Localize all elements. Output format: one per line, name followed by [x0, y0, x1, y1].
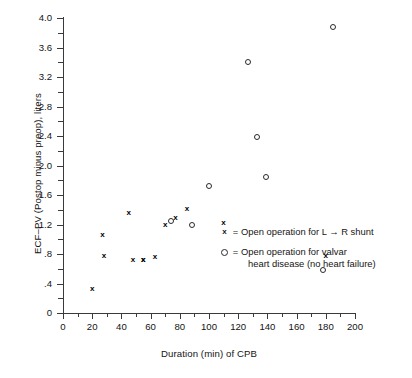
x-tick-major	[297, 313, 298, 319]
y-tick-major	[57, 107, 63, 108]
x-tick-major	[267, 313, 268, 319]
data-point-shunt: x	[152, 253, 159, 260]
x-axis-title: Duration (min) of CPB	[63, 348, 355, 359]
plot-area: 0.4.81.21.62.02.42.83.23.64.0 0204060801…	[0, 0, 412, 378]
y-axis-title: ECF–PV (Postop minus preop), liters	[32, 49, 43, 299]
x-tick-major	[121, 313, 122, 319]
y-tick-label: .8	[8, 248, 52, 259]
y-tick-major	[57, 48, 63, 49]
legend-equals-sign-2: =	[230, 246, 241, 258]
y-tick-minor	[58, 62, 63, 63]
y-tick-major	[57, 254, 63, 255]
x-tick-minor	[282, 313, 283, 317]
x-tick-major	[180, 313, 181, 319]
y-tick-minor	[58, 92, 63, 93]
x-tick-major	[238, 313, 239, 319]
x-tick-major	[92, 313, 93, 319]
data-point-shunt: x	[89, 285, 96, 292]
y-tick-major	[57, 166, 63, 167]
data-point-shunt: x	[100, 252, 107, 259]
legend-marker-x-icon: x	[219, 226, 230, 238]
x-tick-major	[151, 313, 152, 319]
data-point-valvar	[263, 174, 269, 180]
x-tick-minor	[194, 313, 195, 317]
x-tick-minor	[311, 313, 312, 317]
data-point-shunt: x	[125, 209, 132, 216]
x-tick-label: 200	[335, 321, 375, 332]
x-tick-major	[355, 313, 356, 319]
y-tick-label: 1.6	[8, 189, 52, 200]
y-tick-minor	[58, 33, 63, 34]
data-point-valvar	[168, 218, 174, 224]
data-point-shunt: x	[130, 256, 137, 263]
y-tick-minor	[58, 269, 63, 270]
x-tick-major	[209, 313, 210, 319]
data-point-valvar	[330, 24, 336, 30]
y-tick-minor	[58, 121, 63, 122]
x-tick-minor	[107, 313, 108, 317]
y-tick-minor	[58, 239, 63, 240]
y-tick-label: 2.4	[8, 130, 52, 141]
y-tick-label: 3.2	[8, 71, 52, 82]
x-tick-minor	[78, 313, 79, 317]
legend-label-shunt: Open operation for L → R shunt	[241, 226, 374, 238]
y-tick-minor	[58, 151, 63, 152]
y-tick-label: 4.0	[8, 12, 52, 23]
legend-label-valvar: Open operation for valvar heart disease …	[241, 246, 376, 270]
y-tick-major	[57, 195, 63, 196]
data-point-shunt: x	[99, 231, 106, 238]
y-tick-label: .4	[8, 278, 52, 289]
data-point-valvar	[189, 222, 195, 228]
x-tick-major	[63, 313, 64, 319]
legend-label-valvar-line1: Open operation for valvar	[241, 246, 347, 257]
y-tick-major	[57, 18, 63, 19]
y-tick-label: 0	[8, 307, 52, 318]
data-point-valvar	[206, 183, 212, 189]
data-point-valvar	[254, 134, 260, 140]
legend-equals-sign: =	[230, 226, 241, 238]
y-tick-label: 2.8	[8, 101, 52, 112]
data-point-shunt: x	[220, 219, 227, 226]
legend-entry-shunt: x = Open operation for L → R shunt	[219, 226, 409, 238]
y-tick-minor	[58, 298, 63, 299]
data-point-shunt: x	[184, 205, 191, 212]
y-tick-major	[57, 225, 63, 226]
x-tick-minor	[340, 313, 341, 317]
y-axis-line	[63, 17, 64, 314]
x-tick-minor	[165, 313, 166, 317]
y-tick-label: 3.6	[8, 42, 52, 53]
y-tick-major	[57, 284, 63, 285]
scatter-plot-figure: 0.4.81.21.62.02.42.83.23.64.0 0204060801…	[0, 0, 412, 378]
y-tick-label: 2.0	[8, 160, 52, 171]
legend-entry-valvar: = Open operation for valvar heart diseas…	[219, 246, 409, 270]
y-tick-minor	[58, 210, 63, 211]
x-tick-minor	[136, 313, 137, 317]
legend-label-valvar-line2: heart disease (no heart failure)	[241, 258, 376, 270]
legend: x = Open operation for L → R shunt = Ope…	[219, 226, 409, 278]
y-tick-minor	[58, 180, 63, 181]
x-tick-minor	[224, 313, 225, 317]
data-point-shunt: x	[140, 256, 147, 263]
x-tick-major	[326, 313, 327, 319]
y-tick-major	[57, 136, 63, 137]
x-tick-minor	[253, 313, 254, 317]
y-tick-major	[57, 77, 63, 78]
legend-marker-circle-icon	[219, 246, 230, 258]
y-tick-label: 1.2	[8, 219, 52, 230]
data-point-valvar	[245, 59, 251, 65]
